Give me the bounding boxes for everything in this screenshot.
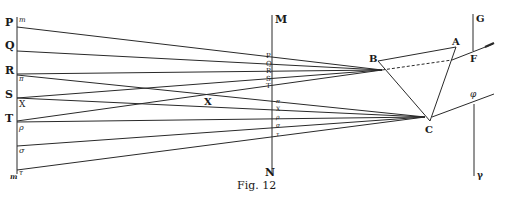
left-label-m: m [19,17,26,24]
left-label-s: S [5,89,13,100]
left-label-q: Q [5,40,15,51]
emergent-ray-phi [432,94,494,117]
screen-label-gamma: γ [477,171,483,180]
left-label-rho: ρ [19,124,24,132]
figure-caption: Fig. 12 [237,180,276,191]
prism-vertex-a: A [452,37,460,47]
screen-label-m: M [275,14,287,25]
screen-label-rho: ρ [276,114,280,120]
screen-label-n: N [265,167,275,178]
dashed-ray [382,60,452,70]
screen-label-phi: φ [470,90,476,99]
left-label-r: R [5,65,14,76]
screen-label-sigma: σ [276,122,280,128]
screen-label-pi: π [276,98,280,104]
lower-ray-bundle [17,75,425,170]
screen-label-p: P [266,53,271,60]
screen-label-t: T [266,83,271,90]
screen-label-x: X [276,106,280,112]
screen-label-tau: τ [276,131,279,137]
screen-label-g: G [476,14,485,24]
prism-triangle [378,47,456,121]
screen-label-r: R [266,68,271,75]
prism-vertex-b: B [369,54,377,64]
prism-vertex-c: C [425,125,433,135]
left-label-p: P [5,17,13,28]
left-label-tau: τ [19,170,23,177]
crossing-label-x: X [204,97,212,107]
optics-diagram [0,0,505,200]
screen-label-f: F [470,54,477,64]
left-label-sigma: σ [19,147,24,155]
left-label-x: X [19,100,25,109]
left-label-bottom-m: m [10,173,17,180]
left-label-t: T [5,113,13,124]
left-label-pi: π [19,76,24,83]
